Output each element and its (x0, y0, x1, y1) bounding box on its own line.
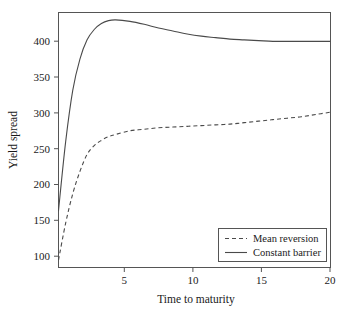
chart-figure: 400 350 300 250 200 150 100 5 10 15 20 T… (0, 0, 345, 315)
chart-legend: Mean reversion Constant barrier (219, 229, 327, 262)
yield-spread-line-chart: 400 350 300 250 200 150 100 5 10 15 20 T… (0, 0, 345, 315)
y-tick-label: 250 (34, 143, 51, 155)
x-axis-title: Time to maturity (157, 293, 235, 306)
legend-label-mean-reversion: Mean reversion (253, 233, 319, 244)
legend-label-constant-barrier: Constant barrier (253, 247, 321, 258)
y-tick-label: 200 (34, 178, 51, 190)
y-tick-label: 100 (34, 250, 51, 262)
y-axis-title: Yield spread (7, 111, 20, 169)
y-tick-label: 300 (34, 107, 51, 119)
x-tick-label: 20 (325, 274, 337, 286)
x-tick-label: 10 (187, 274, 199, 286)
y-tick-label: 350 (34, 71, 51, 83)
y-tick-label: 150 (34, 214, 51, 226)
x-tick-label: 5 (122, 274, 128, 286)
x-tick-label: 15 (256, 274, 268, 286)
y-tick-label: 400 (34, 35, 51, 47)
